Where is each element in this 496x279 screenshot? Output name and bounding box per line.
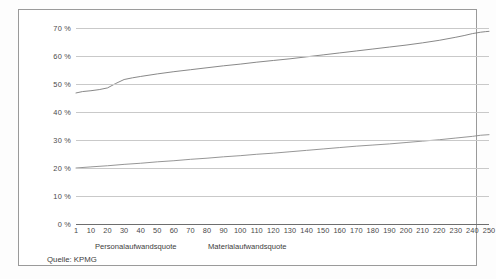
x-tick-label: 10 [87, 226, 95, 235]
y-tick-label: 30 % [53, 136, 71, 145]
legend-entry-1: Personalaufwandsquote [95, 242, 176, 251]
gridline [76, 84, 489, 85]
y-tick-label: 40 % [53, 108, 71, 117]
gridline [76, 112, 489, 113]
x-tick-label: 100 [234, 226, 247, 235]
x-tick-label: 90 [219, 226, 227, 235]
x-tick-label: 220 [433, 226, 446, 235]
gridline [76, 28, 489, 29]
x-axis-line [76, 224, 489, 225]
gridline [76, 56, 489, 57]
legend-entry-2: Materialaufwandsquote [208, 242, 287, 251]
x-tick-label: 160 [333, 226, 346, 235]
x-tick-label: 60 [170, 226, 178, 235]
x-tick-label: 20 [103, 226, 111, 235]
x-axis-tick-labels: 1102030405060708090100110120130140150160… [76, 226, 489, 238]
y-tick-label: 60 % [53, 52, 71, 61]
chart-frame: 0 %10 %20 %30 %40 %50 %60 %70 % 11020304… [18, 9, 477, 266]
y-tick-label: 70 % [53, 24, 71, 33]
x-tick-label: 210 [416, 226, 429, 235]
chart-figure: 0 %10 %20 %30 %40 %50 %60 %70 % 11020304… [0, 0, 496, 279]
y-tick-label: 0 % [58, 220, 71, 229]
x-tick-label: 70 [186, 226, 194, 235]
x-tick-label: 240 [466, 226, 479, 235]
plot-area: 0 %10 %20 %30 %40 %50 %60 %70 % [76, 28, 489, 224]
x-tick-label: 170 [350, 226, 363, 235]
x-tick-label: 30 [120, 226, 128, 235]
x-tick-label: 50 [153, 226, 161, 235]
gridline [76, 196, 489, 197]
x-tick-label: 80 [203, 226, 211, 235]
x-tick-label: 250 [483, 226, 496, 235]
x-tick-label: 130 [284, 226, 297, 235]
y-tick-label: 20 % [53, 164, 71, 173]
y-tick-label: 10 % [53, 192, 71, 201]
x-tick-label: 230 [449, 226, 462, 235]
x-tick-label: 120 [267, 226, 280, 235]
x-tick-label: 110 [251, 226, 263, 235]
x-tick-label: 1 [74, 226, 78, 235]
source-note: Quelle: KPMG [47, 255, 97, 264]
series-lines [76, 28, 489, 224]
x-tick-label: 40 [136, 226, 144, 235]
x-tick-label: 190 [383, 226, 396, 235]
y-tick-label: 50 % [53, 80, 71, 89]
x-tick-label: 150 [317, 226, 330, 235]
gridline [76, 140, 489, 141]
gridline [76, 168, 489, 169]
x-tick-label: 180 [367, 226, 380, 235]
x-tick-label: 200 [400, 226, 413, 235]
x-tick-label: 140 [300, 226, 313, 235]
